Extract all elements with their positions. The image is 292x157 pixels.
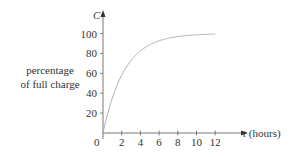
y-axis-symbol: C [93,9,101,21]
y-tick-label: 20 [86,107,98,119]
y-tick-label: 60 [86,67,98,79]
x-tick-label: 4 [138,136,144,148]
y-tick-label: 100 [81,28,98,40]
origin-label: 0 [94,136,100,148]
charge-curve [103,34,215,133]
x-tick-label: 12 [210,136,221,148]
x-tick-label: 6 [156,136,162,148]
chart-canvas: Ct (hours)02468101220406080100 [0,0,292,157]
x-tick-label: 10 [191,136,203,148]
x-tick-label: 2 [119,136,125,148]
y-tick-label: 80 [86,47,98,59]
x-axis-title: t (hours) [243,127,281,140]
x-tick-label: 8 [175,136,181,148]
y-tick-label: 40 [86,87,98,99]
y-axis-arrow-icon [101,10,106,17]
